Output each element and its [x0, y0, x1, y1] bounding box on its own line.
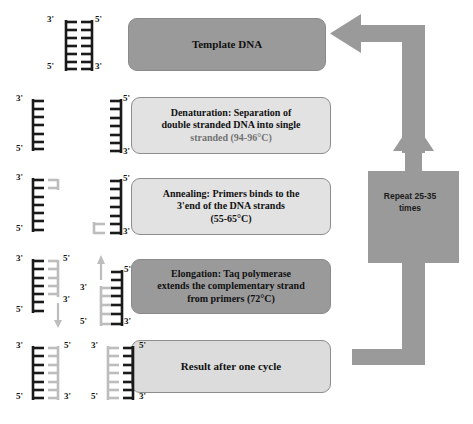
step-label-elongation: Elongation: Taq polymerase extends the c… [157, 268, 304, 305]
step-box-result: Result after one cycle [131, 340, 331, 393]
prime-label-template-right-bottom: 3' [95, 61, 102, 71]
prime-label-elongation-left-new-top: 5' [63, 253, 70, 263]
step-label-result: Result after one cycle [181, 360, 281, 373]
prime-label-template-left-top: 3' [47, 14, 54, 24]
elongation-arrowhead-down [54, 320, 62, 328]
step-label-denaturation: Denaturation: Separation of double stran… [162, 107, 301, 144]
step-label-annealing: Annealing: Primers binds to the 3'end of… [163, 188, 300, 225]
elongation-arrowhead-up [97, 255, 105, 264]
prime-label-elongation-left-new-bottom: 3' [63, 294, 70, 304]
prime-label-result-right-duplex-right-top: 5' [139, 340, 146, 350]
prime-label-denaturation-right-bottom: 3' [123, 146, 130, 156]
prime-label-result-right-duplex-left-bottom: 5' [91, 391, 98, 401]
prime-label-elongation-left-template-bottom: 5' [16, 304, 23, 314]
prime-label-denaturation-left-bottom: 5' [16, 143, 23, 153]
dna-denaturation-left-strand [28, 97, 54, 153]
prime-label-result-left-duplex-left-bottom: 5' [16, 391, 23, 401]
prime-label-elongation-right-template-top: 5' [124, 264, 131, 274]
prime-label-annealing-right-top: 5' [123, 173, 130, 183]
prime-label-annealing-right-bottom: 3' [123, 226, 130, 236]
dna-elongation-left [28, 257, 74, 329]
prime-label-annealing-left-top: 3' [16, 172, 23, 182]
new-strand-left [48, 260, 58, 297]
prime-label-template-left-bottom: 5' [47, 61, 54, 71]
primer-left [48, 179, 58, 190]
step-box-elongation: Elongation: Taq polymerase extends the c… [131, 259, 331, 314]
prime-label-elongation-right-new-top: 3' [80, 282, 87, 292]
step-box-annealing: Annealing: Primers binds to the 3'end of… [131, 178, 331, 235]
prime-label-result-right-duplex-left-top: 3' [91, 340, 98, 350]
step-label-template-dna: Template DNA [192, 38, 262, 51]
prime-label-result-right-duplex-right-bottom: 3' [139, 391, 146, 401]
prime-label-elongation-right-template-bottom: 3' [124, 316, 131, 326]
prime-label-denaturation-right-top: 5' [123, 93, 130, 103]
dna-annealing-left-strand-with-primer [28, 176, 70, 234]
prime-label-result-left-duplex-right-top: 5' [64, 340, 71, 350]
new-strand-right [101, 286, 112, 326]
prime-label-denaturation-left-top: 3' [16, 93, 23, 103]
step-box-denaturation: Denaturation: Separation of double stran… [131, 97, 331, 154]
prime-label-elongation-left-template-top: 3' [16, 253, 23, 263]
prime-label-elongation-right-new-bottom: 5' [80, 316, 87, 326]
dna-template-duplex [60, 18, 110, 73]
primer-right [94, 222, 105, 234]
prime-label-result-left-duplex-right-bottom: 3' [64, 391, 71, 401]
step-box-template-dna: Template DNA [128, 18, 326, 71]
prime-label-result-left-duplex-left-top: 3' [16, 340, 23, 350]
prime-label-template-right-top: 5' [95, 14, 102, 24]
prime-label-annealing-left-bottom: 5' [16, 223, 23, 233]
pcr-diagram: Template DNA Denaturation: Separation of… [0, 0, 473, 424]
repeat-loop-label: Repeat 25-35 times [368, 190, 452, 215]
